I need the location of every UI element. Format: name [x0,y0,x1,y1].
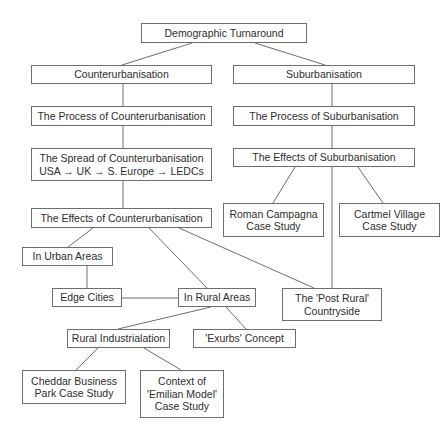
edge-effects-counterurbanisation-to-post-rural-countryside [179,228,314,288]
node-process-counterurbanisation: The Process of Counterurbanisation [31,106,212,126]
node-demographic-turnaround: Demographic Turnaround [141,23,307,43]
node-effects-counterurbanisation: The Effects of Counterurbanisation [31,208,212,228]
node-process-suburbanisation: The Process of Suburbanisation [233,106,415,126]
node-rural-industrialation: Rural Industrialation [67,329,170,348]
edge-rural-industrialation-to-cheddar-business-park [76,348,98,370]
edge-effects-suburbanisation-to-roman-campagna [273,167,295,203]
node-spread-counterurbanisation: The Spread of Counterurbanisation USA → … [31,148,212,181]
edge-effects-counterurbanisation-to-in-urban-areas [68,228,93,247]
node-effects-suburbanisation: The Effects of Suburbanisation [233,148,415,167]
node-cheddar-business-park: Cheddar Business Park Case Study [22,370,126,404]
edge-effects-suburbanisation-to-cartmel-village [358,167,383,203]
node-counterurbanisation: Counterurbanisation [31,65,212,84]
edge-rural-industrialation-to-emilian-model [144,348,181,370]
edge-in-rural-areas-to-rural-industrialation [118,307,211,329]
node-roman-campagna: Roman Campagna Case Study [223,203,324,237]
node-exurbs-concept: 'Exurbs' Concept [193,329,296,348]
edge-in-rural-areas-to-exurbs-concept [226,307,246,329]
node-post-rural-countryside: The 'Post Rural' Countryside [282,288,382,321]
node-suburbanisation: Suburbanisation [233,65,415,84]
node-edge-cities: Edge Cities [52,288,122,307]
node-in-rural-areas: In Rural Areas [178,288,256,307]
edge-demographic-turnaround-to-suburbanisation [255,43,325,65]
node-emilian-model: Context of 'Emilian Model' Case Study [140,370,224,418]
node-cartmel-village: Cartmel Village Case Study [339,203,440,237]
node-in-urban-areas: In Urban Areas [22,247,113,266]
edge-demographic-turnaround-to-counterurbanisation [122,43,192,65]
